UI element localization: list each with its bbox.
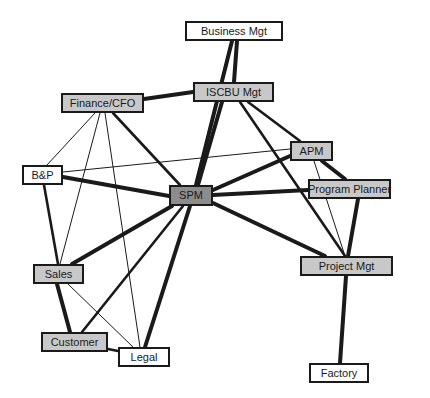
node-legal: Legal xyxy=(118,347,170,367)
edge-iscbu-mgt-to-apm xyxy=(248,102,300,141)
edge-spm-to-sales xyxy=(72,206,172,264)
edge-finance-cfo-to-legal xyxy=(105,113,140,347)
edge-project-mgt-to-factory xyxy=(340,276,346,363)
edge-sales-to-customer xyxy=(57,284,70,332)
node-sales: Sales xyxy=(33,264,84,284)
node-factory: Factory xyxy=(309,363,369,383)
node-label: Factory xyxy=(321,368,358,379)
edge-business-mgt-to-spm xyxy=(196,41,232,185)
node-customer: Customer xyxy=(41,332,108,352)
edge-finance-cfo-to-spm xyxy=(113,113,180,185)
node-iscbu-mgt: ISCBU Mgt xyxy=(193,82,274,102)
node-label: Customer xyxy=(51,337,99,348)
edge-bp-to-sales xyxy=(44,185,58,264)
node-label: Project Mgt xyxy=(319,261,375,272)
edge-spm-to-project-mgt xyxy=(213,203,325,256)
node-program-planner: Program Planner xyxy=(308,179,391,199)
node-spm: SPM xyxy=(169,185,213,206)
edge-finance-cfo-to-sales xyxy=(60,113,100,264)
edge-business-mgt-to-iscbu-mgt xyxy=(234,41,237,82)
edge-iscbu-mgt-to-spm xyxy=(198,102,222,185)
node-label: SPM xyxy=(179,190,203,201)
node-label: B&P xyxy=(31,170,53,181)
node-label: Legal xyxy=(131,352,158,363)
edge-program-planner-to-project-mgt xyxy=(348,199,358,256)
node-label: Business Mgt xyxy=(201,26,267,37)
edge-spm-to-program-planner xyxy=(213,190,308,195)
node-label: Sales xyxy=(45,269,73,280)
edge-customer-to-legal xyxy=(108,349,118,351)
node-label: ISCBU Mgt xyxy=(206,87,261,98)
node-apm: APM xyxy=(290,141,333,161)
node-finance-cfo: Finance/CFO xyxy=(61,93,144,113)
edge-iscbu-mgt-to-finance-cfo xyxy=(144,92,193,99)
node-bp: B&P xyxy=(22,165,63,185)
node-business-mgt: Business Mgt xyxy=(185,21,283,41)
stakeholder-network-diagram: Business MgtISCBU MgtFinance/CFOAPMB&PSP… xyxy=(0,0,430,398)
edge-apm-to-program-planner xyxy=(322,161,345,179)
node-label: Finance/CFO xyxy=(70,98,135,109)
node-label: Program Planner xyxy=(308,184,391,195)
node-label: APM xyxy=(300,146,324,157)
edge-spm-to-apm xyxy=(213,156,290,190)
edge-bp-to-apm xyxy=(63,149,290,172)
node-project-mgt: Project Mgt xyxy=(300,256,393,276)
